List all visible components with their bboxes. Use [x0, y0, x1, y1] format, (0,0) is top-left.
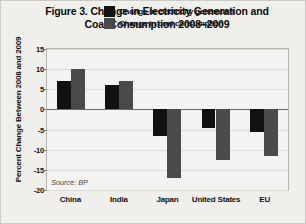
y-axis-tick-label: 15	[36, 45, 44, 54]
bar-series-group	[47, 49, 288, 190]
bar	[105, 85, 119, 109]
bar	[216, 109, 230, 159]
plot-area: 151050-5-10-15-20 Source: BP	[46, 48, 289, 191]
y-axis-tick-label: 5	[40, 85, 44, 94]
bar	[119, 81, 133, 109]
y-axis-tick-label: -5	[38, 125, 44, 134]
x-axis-label: Japan	[156, 195, 178, 204]
figure-container: Figure 3. Change in Electricity Generati…	[0, 0, 306, 224]
bar	[71, 69, 85, 109]
x-axis-label: United States	[192, 195, 241, 204]
y-axis-tick-label: -15	[34, 165, 44, 174]
y-axis-tick-label: -10	[34, 145, 44, 154]
gridline	[47, 190, 288, 191]
x-axis-label: China	[60, 195, 81, 204]
legend-item-electricity-generation: Change in electricity generation	[104, 6, 234, 17]
x-axis-label: India	[110, 195, 128, 204]
bar-group	[105, 49, 134, 190]
bar	[264, 109, 278, 155]
bar-group	[57, 49, 86, 190]
legend-label-electricity-generation: Change in electricity generation	[119, 7, 234, 16]
chart-legend: Change in electricity generation Change …	[104, 6, 234, 29]
legend-item-coal-consumption: Change in coal consumption	[104, 18, 234, 29]
legend-label-coal-consumption: Change in coal consumption	[119, 19, 223, 28]
bar	[153, 109, 167, 135]
bar-group	[249, 49, 278, 190]
bar	[250, 109, 264, 131]
y-axis-tick-label: 0	[40, 105, 44, 114]
bar	[57, 81, 71, 109]
y-axis-tick-label: 10	[36, 65, 44, 74]
bar-group	[153, 49, 182, 190]
y-axis-tick-label: -20	[34, 186, 44, 195]
x-axis-label: EU	[259, 195, 270, 204]
bar	[202, 109, 216, 127]
bar-group	[201, 49, 230, 190]
y-axis-tickmark	[44, 190, 47, 191]
source-note: Source: BP	[51, 178, 88, 187]
y-axis-title: Percent Change Between 2008 and 2009	[14, 35, 23, 185]
legend-swatch-coal-consumption	[104, 18, 115, 29]
legend-swatch-electricity-generation	[104, 6, 115, 17]
bar	[167, 109, 181, 177]
